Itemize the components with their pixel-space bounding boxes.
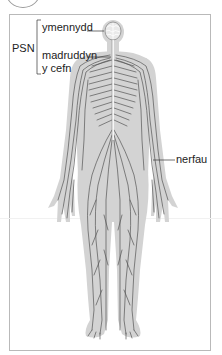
nerves-label: nerfau xyxy=(176,153,207,165)
brain-label: ymennydd xyxy=(42,21,93,33)
spinal-cord-label-line1: madruddyn xyxy=(42,49,97,61)
brain xyxy=(105,22,121,40)
psn-label: PSN xyxy=(12,42,35,54)
spinal-cord-label-line2: y cefn xyxy=(42,62,71,74)
psn-bracket xyxy=(37,20,41,74)
